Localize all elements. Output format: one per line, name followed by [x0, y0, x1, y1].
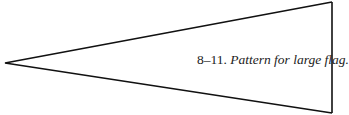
caption-title: Pattern for large flag. — [230, 52, 349, 67]
figure-caption: 8–11. Pattern for large flag. — [197, 52, 349, 68]
caption-number: 8–11. — [197, 52, 227, 67]
